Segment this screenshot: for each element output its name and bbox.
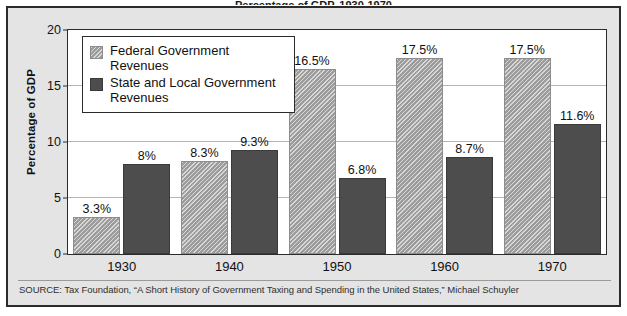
plot-area: 05101520 3.3%8%8.3%9.3%16.5%6.8%17.5%8.7…: [67, 29, 607, 255]
chart-panel: Percentage of GDP 05101520 3.3%8%8.3%9.3…: [6, 6, 621, 307]
y-tick-label: 10: [17, 135, 61, 149]
x-category-label-1960: 1960: [430, 259, 459, 274]
bar-value-label: 17.5%: [402, 43, 437, 57]
y-tick-label: 5: [17, 191, 61, 205]
bar-state-local-1960: 8.7%: [446, 157, 493, 254]
y-tick-label: 0: [17, 247, 61, 261]
bar-value-label: 17.5%: [509, 43, 544, 57]
bar-value-label: 8.3%: [190, 146, 219, 160]
y-tick-mark: [63, 30, 68, 31]
bar-value-label: 9.3%: [240, 135, 269, 149]
legend-label-federal: Federal Government Revenues: [110, 44, 285, 73]
bar-state-local-1970: 11.6%: [554, 124, 601, 254]
bar-federal-1940: 8.3%: [181, 161, 228, 254]
x-category-label-1950: 1950: [323, 259, 352, 274]
y-tick-mark: [63, 86, 68, 87]
x-category-label-1970: 1970: [538, 259, 567, 274]
x-category-label-1940: 1940: [215, 259, 244, 274]
source-divider: [18, 280, 611, 281]
source-note: SOURCE: Tax Foundation, “A Short History…: [19, 284, 614, 295]
chart-figure: Percentage of GDP, 1930-1970 Percentage …: [0, 0, 627, 316]
y-tick-mark: [63, 142, 68, 143]
legend-swatch-state-local-icon: [90, 78, 103, 91]
legend-label-state-local: State and Local Government Revenues: [110, 76, 285, 105]
bar-value-label: 8%: [138, 149, 156, 163]
y-tick-mark: [63, 198, 68, 199]
bar-value-label: 8.7%: [455, 142, 484, 156]
bar-state-local-1930: 8%: [123, 164, 170, 254]
legend-item-state-local: State and Local Government Revenues: [90, 76, 285, 105]
bar-value-label: 6.8%: [348, 163, 377, 177]
bar-federal-1950: 16.5%: [289, 69, 336, 254]
chart-legend: Federal Government Revenues State and Lo…: [82, 36, 295, 113]
bar-federal-1960: 17.5%: [396, 58, 443, 254]
chart-title: Percentage of GDP, 1930-1970: [0, 0, 627, 5]
bar-federal-1930: 3.3%: [73, 217, 120, 254]
bar-state-local-1950: 6.8%: [339, 178, 386, 254]
bar-value-label: 16.5%: [294, 54, 329, 68]
x-category-label-1930: 1930: [107, 259, 136, 274]
legend-item-federal: Federal Government Revenues: [90, 44, 285, 73]
y-tick-label: 15: [17, 79, 61, 93]
legend-swatch-federal-icon: [90, 46, 103, 59]
bar-value-label: 3.3%: [83, 202, 112, 216]
bar-value-label: 11.6%: [560, 109, 595, 123]
y-tick-label: 20: [17, 23, 61, 37]
y-tick-mark: [63, 254, 68, 255]
y-axis-title: Percentage of GDP: [25, 47, 37, 197]
bar-state-local-1940: 9.3%: [231, 150, 278, 254]
bar-federal-1970: 17.5%: [504, 58, 551, 254]
